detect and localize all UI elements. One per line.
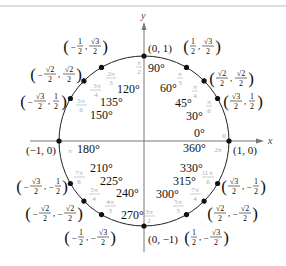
minus: − bbox=[27, 97, 32, 107]
minus2: − bbox=[246, 182, 251, 192]
paren-r: ) bbox=[102, 37, 108, 56]
minus: − bbox=[37, 70, 42, 80]
rad-90: π 2 bbox=[136, 59, 142, 76]
comma: , bbox=[228, 208, 230, 218]
rad-300-num-pi: π bbox=[178, 198, 182, 206]
deg-150: 150° bbox=[90, 108, 113, 122]
paren-l: ( bbox=[209, 69, 215, 88]
point-270 bbox=[141, 223, 146, 228]
rad-60-den: 3 bbox=[178, 79, 182, 87]
num2: 1 bbox=[54, 92, 58, 101]
den: 2 bbox=[48, 75, 52, 84]
deg-360: 360° bbox=[183, 141, 206, 155]
den: 2 bbox=[34, 187, 38, 196]
deg-210: 210° bbox=[90, 161, 113, 175]
point-330 bbox=[215, 181, 220, 186]
paren-r: ) bbox=[61, 92, 67, 111]
point-30 bbox=[215, 96, 220, 101]
rad-210-den: 6 bbox=[77, 178, 81, 186]
num2: √3 bbox=[99, 228, 107, 237]
comma: , bbox=[199, 232, 201, 242]
rad-225: 5 π 4 bbox=[89, 186, 100, 203]
point-45 bbox=[202, 78, 207, 83]
num2: √3 bbox=[212, 228, 220, 237]
coord-90: (0, 1) bbox=[148, 42, 172, 55]
paren-l: ( bbox=[207, 204, 213, 223]
den2: 2 bbox=[56, 187, 60, 196]
deg-90: 90° bbox=[148, 61, 165, 75]
paren-l: ( bbox=[30, 65, 36, 84]
y-axis-label: y bbox=[140, 10, 146, 21]
rad-90-num: π bbox=[137, 59, 141, 67]
rad-90-den: 2 bbox=[137, 68, 141, 76]
rad-225-num-pi: π bbox=[94, 186, 98, 194]
num: 1 bbox=[191, 37, 195, 46]
num2: √2 bbox=[65, 65, 73, 74]
coord-315: ( √2 2 , − √2 2 ) bbox=[207, 204, 258, 223]
num: √2 bbox=[216, 204, 224, 213]
num: √3 bbox=[230, 177, 238, 186]
rad-360: 2π bbox=[214, 146, 222, 154]
den2: 2 bbox=[54, 102, 58, 111]
rad-240-num-pi: π bbox=[110, 198, 114, 206]
num: 1 bbox=[78, 37, 82, 46]
rad-0: 0 bbox=[222, 132, 226, 140]
rad-150-num-pi: π bbox=[81, 97, 85, 105]
paren-l: ( bbox=[16, 177, 22, 196]
coord-330: ( √3 2 , − 1 2 ) bbox=[221, 177, 266, 196]
deg-0: 0° bbox=[194, 126, 205, 140]
rad-330: 11 π 6 bbox=[202, 169, 214, 186]
den2: 2 bbox=[206, 47, 210, 56]
rad-270: 3 π 2 bbox=[144, 208, 155, 225]
den: 2 bbox=[191, 47, 195, 56]
den: 2 bbox=[38, 102, 42, 111]
paren-r: ) bbox=[76, 65, 82, 84]
den: 2 bbox=[234, 102, 238, 111]
rad-150-den: 6 bbox=[79, 106, 83, 114]
comma: , bbox=[58, 69, 60, 79]
num2: 1 bbox=[56, 177, 60, 186]
rad-180: π bbox=[68, 147, 72, 155]
num: 1 bbox=[192, 228, 196, 237]
comma: , bbox=[85, 41, 87, 51]
rad-315-num-pi: π bbox=[195, 186, 199, 194]
rad-330-num-pi: π bbox=[209, 169, 213, 177]
num: √3 bbox=[232, 92, 240, 101]
deg-45: 45° bbox=[175, 96, 192, 110]
point-90 bbox=[141, 53, 146, 58]
coord-210: ( − √3 2 , − 1 2 ) bbox=[16, 177, 68, 196]
num2: 1 bbox=[250, 92, 254, 101]
num2: √3 bbox=[204, 37, 212, 46]
x-axis-label: x bbox=[267, 135, 273, 146]
rad-330-den: 6 bbox=[206, 178, 210, 186]
y-axis-arrow-icon bbox=[142, 22, 147, 30]
num: √2 bbox=[218, 69, 226, 78]
rad-135-num-pi: π bbox=[97, 82, 101, 90]
paren-r: ) bbox=[257, 92, 263, 111]
comma: , bbox=[86, 232, 88, 242]
minus: − bbox=[70, 42, 75, 52]
rad-240: 4 π 3 bbox=[105, 198, 116, 215]
minus: − bbox=[23, 182, 28, 192]
comma: , bbox=[53, 208, 55, 218]
rad-30-den: 6 bbox=[207, 107, 211, 115]
paren-r: ) bbox=[62, 177, 68, 196]
den2: 2 bbox=[254, 187, 258, 196]
rad-330-num: 11 bbox=[202, 169, 209, 177]
point-315 bbox=[202, 199, 207, 204]
paren-l: ( bbox=[223, 92, 229, 111]
den: 2 bbox=[218, 214, 222, 223]
paren-l: ( bbox=[64, 228, 70, 247]
paren-l: ( bbox=[183, 37, 189, 56]
den2: 2 bbox=[250, 102, 254, 111]
deg-120: 120° bbox=[117, 82, 140, 96]
deg-330: 330° bbox=[180, 161, 203, 175]
den2: 2 bbox=[101, 238, 105, 247]
point-150 bbox=[68, 96, 73, 101]
paren-r: ) bbox=[215, 37, 221, 56]
deg-30: 30° bbox=[186, 109, 203, 123]
minus: − bbox=[71, 233, 76, 243]
den: 2 bbox=[79, 238, 83, 247]
paren-r: ) bbox=[248, 69, 254, 88]
comma: , bbox=[242, 181, 244, 191]
